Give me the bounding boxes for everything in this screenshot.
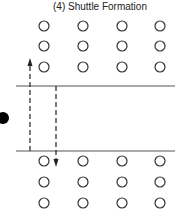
formation-diagram	[0, 0, 183, 220]
top-player-grid	[39, 21, 165, 72]
ball-marker-icon	[0, 112, 9, 124]
bottom-player-grid	[39, 156, 165, 208]
down-dashed-arrow	[54, 86, 59, 167]
up-dashed-arrow	[28, 58, 33, 151]
